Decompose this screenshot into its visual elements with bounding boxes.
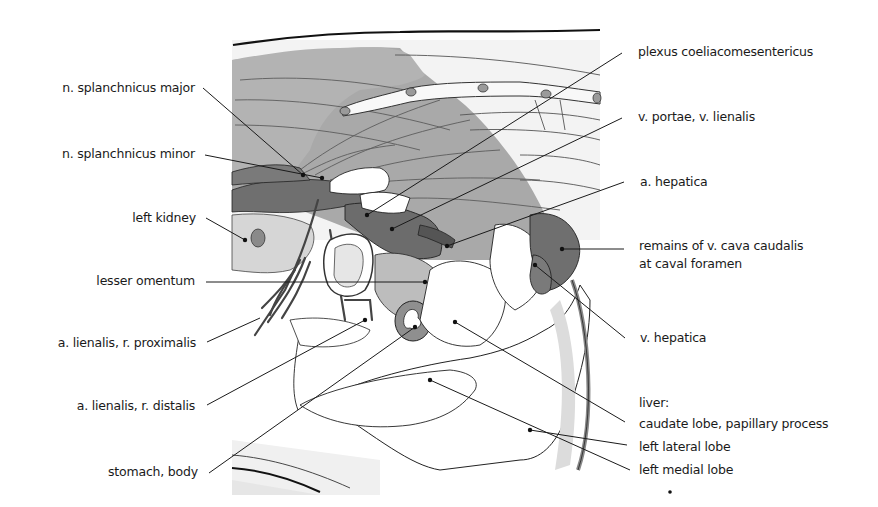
label-left-medial-lobe: left medial lobe xyxy=(639,462,733,477)
label-stomach-body: stomach, body xyxy=(108,464,198,479)
label-left-kidney: left kidney xyxy=(132,210,196,225)
anatomy-figure: n. splanchnicus major n. splanchnicus mi… xyxy=(0,0,878,507)
label-a-lienalis-r-proximalis: a. lienalis, r. proximalis xyxy=(58,335,196,350)
label-v-hepatica: v. hepatica xyxy=(640,330,706,345)
label-lesser-omentum: lesser omentum xyxy=(96,273,195,288)
label-a-lienalis-r-distalis: a. lienalis, r. distalis xyxy=(77,398,195,413)
label-remains-v-cava-caudalis: remains of v. cava caudalis xyxy=(639,238,803,253)
label-a-hepatica: a. hepatica xyxy=(640,174,708,189)
label-caudate-lobe-papillary-process: caudate lobe, papillary process xyxy=(639,416,828,431)
label-liver: liver: xyxy=(639,395,669,410)
label-plexus-coeliacomesentericus: plexus coeliacomesentericus xyxy=(638,44,813,59)
label-at-caval-foramen: at caval foramen xyxy=(639,256,742,271)
label-n-splanchnicus-minor: n. splanchnicus minor xyxy=(62,146,195,161)
label-n-splanchnicus-major: n. splanchnicus major xyxy=(62,80,195,95)
label-left-lateral-lobe: left lateral lobe xyxy=(639,439,731,454)
label-v-portae-v-lienalis: v. portae, v. lienalis xyxy=(638,109,755,124)
